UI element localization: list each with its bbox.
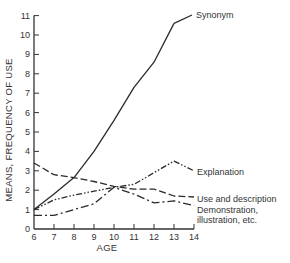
x-tick-label: 14	[189, 232, 199, 242]
series-line-use-and-description	[34, 163, 194, 197]
series-label-illustration: illustration, etc.	[197, 215, 257, 225]
x-tick-label: 11	[129, 232, 138, 242]
series-line-explanation	[34, 161, 194, 210]
line-chart: 01234567891011 67891011121314 AGE MEANS,…	[0, 0, 290, 263]
y-tick-label: 3	[25, 166, 30, 176]
x-tick-label: 6	[31, 232, 36, 242]
y-tick-label: 1	[25, 205, 30, 215]
leader-lines	[174, 15, 192, 23]
synonym-leader-line	[174, 15, 192, 23]
y-tick-label: 2	[25, 185, 30, 195]
x-tick-label: 8	[71, 232, 76, 242]
x-tick-label: 7	[51, 232, 56, 242]
series-label-demonstration: Demonstration,	[197, 205, 258, 215]
x-axis-title: AGE	[97, 242, 118, 253]
y-tick-label: 7	[25, 88, 30, 98]
series-line-synonym	[34, 23, 174, 209]
x-axis: 67891011121314	[31, 224, 199, 242]
y-tick-label: 5	[25, 127, 30, 137]
series-label-use-description: Use and description	[197, 194, 277, 204]
series-label-explanation: Explanation	[197, 167, 244, 177]
y-tick-label: 11	[21, 11, 30, 21]
x-tick-label: 12	[149, 232, 159, 242]
y-axis-title: MEANS, FREQUENCY OF USE	[3, 58, 14, 201]
series-lines	[34, 23, 194, 215]
y-tick-label: 9	[25, 49, 30, 59]
y-tick-label: 6	[25, 108, 30, 118]
x-tick-label: 13	[169, 232, 179, 242]
y-axis: 01234567891011	[20, 11, 39, 234]
y-tick-label: 4	[25, 146, 30, 156]
x-tick-label: 9	[91, 232, 96, 242]
y-tick-label: 0	[25, 224, 30, 234]
y-tick-label: 10	[20, 30, 30, 40]
y-tick-label: 8	[25, 69, 30, 79]
series-label-synonym: Synonym	[196, 10, 234, 20]
x-tick-label: 10	[109, 232, 119, 242]
